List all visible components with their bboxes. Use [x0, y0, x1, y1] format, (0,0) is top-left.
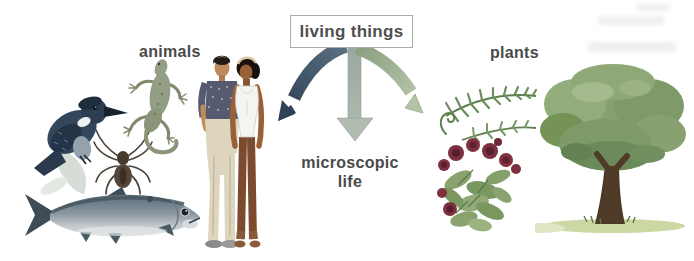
tree-illustration — [535, 58, 694, 236]
living-things-box: living things — [290, 15, 413, 48]
microscopic-life-line1: microscopic — [275, 153, 425, 172]
page-showthrough-smudge — [588, 42, 676, 52]
man-figure — [202, 56, 239, 248]
fish-illustration — [22, 186, 207, 246]
arrow-to-animals — [278, 46, 346, 121]
arrow-to-plants — [357, 48, 423, 113]
textbook-diagram-living-things: living things an — [0, 0, 694, 261]
plants-label: plants — [490, 44, 539, 62]
branch-arrows — [262, 42, 462, 147]
flowering-bush-illustration — [428, 135, 528, 235]
page-showthrough-smudge — [636, 4, 670, 11]
lizard-illustration — [122, 58, 194, 160]
microscopic-life-line2: life — [275, 172, 425, 191]
page-showthrough-smudge — [598, 16, 664, 25]
microscopic-life-label: microscopic life — [275, 153, 425, 191]
living-things-label: living things — [299, 22, 403, 42]
